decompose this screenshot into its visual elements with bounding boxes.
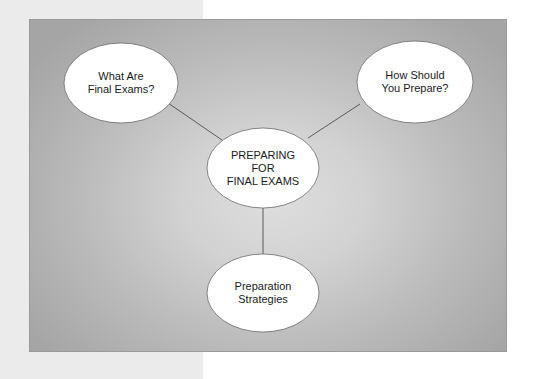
node-label-what-are-final-exams: What Are Final Exams? [88,70,155,96]
concept-map [0,0,533,379]
node-label-how-should-you-prepare: How Should You Prepare? [382,69,449,95]
connector-line-what [168,103,222,140]
connector-line-how [308,104,360,138]
page: PREPARING FOR FINAL EXAMS What Are Final… [0,0,533,379]
node-label-preparation-strategies: Preparation Strategies [235,280,292,306]
center-node-label: PREPARING FOR FINAL EXAMS [227,149,299,188]
